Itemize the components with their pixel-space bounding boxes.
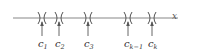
point-label: ck [148, 39, 158, 52]
point-marker [38, 12, 46, 36]
point-marker [84, 12, 92, 36]
point-marker [55, 12, 63, 36]
point-label: ck−1 [124, 39, 143, 52]
x-axis-label: x [172, 11, 177, 21]
point-marker [124, 12, 132, 36]
number-line-diagram [0, 0, 199, 56]
point-marker [148, 12, 156, 36]
point-label: c3 [84, 39, 94, 52]
point-label: c1 [38, 39, 48, 52]
point-label: c2 [55, 39, 65, 52]
